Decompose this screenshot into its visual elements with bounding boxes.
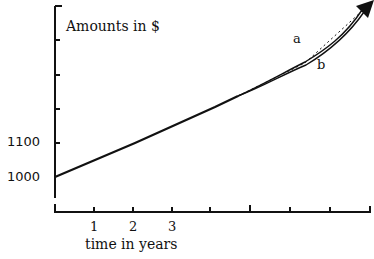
x-tick-3: 3: [168, 219, 176, 234]
chart-plot: [0, 0, 374, 259]
curve-a: [238, 10, 362, 96]
x-tick-1: 1: [90, 219, 98, 234]
chart: Amounts in $ a b 1100 1000 1 2 3 time in…: [0, 0, 374, 259]
y-tick-1000: 1000: [7, 169, 40, 184]
y-axis-title: Amounts in $: [66, 18, 160, 34]
y-axis: [55, 6, 62, 212]
curve-b-label: b: [317, 57, 325, 72]
x-axis: [54, 205, 371, 212]
curve-b: [238, 12, 364, 96]
x-axis-title: time in years: [85, 236, 177, 252]
curve-a-label: a: [293, 31, 301, 46]
x-tick-2: 2: [129, 219, 137, 234]
y-tick-1100: 1100: [7, 134, 40, 149]
curve-common: [55, 96, 238, 177]
